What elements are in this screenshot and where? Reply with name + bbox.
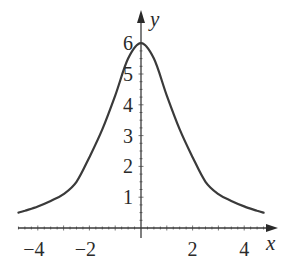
y-tick-label: 6 bbox=[123, 32, 133, 54]
y-tick-label: 2 bbox=[123, 155, 133, 177]
x-tick-label: −4 bbox=[23, 238, 44, 260]
y-tick-label: 4 bbox=[123, 94, 133, 116]
function-plot: −4−224 123456 x y bbox=[0, 0, 292, 276]
x-tick-label: 4 bbox=[239, 238, 249, 260]
x-tick-label: 2 bbox=[188, 238, 198, 260]
x-tick-label: −2 bbox=[75, 238, 96, 260]
x-tick-labels: −4−224 bbox=[23, 238, 249, 260]
y-tick-label: 5 bbox=[123, 63, 133, 85]
y-axis-arrow-icon bbox=[137, 10, 145, 23]
y-axis-label: y bbox=[148, 7, 160, 31]
y-tick-label: 1 bbox=[123, 186, 133, 208]
x-axis-label: x bbox=[265, 231, 276, 255]
y-tick-label: 3 bbox=[123, 125, 133, 147]
